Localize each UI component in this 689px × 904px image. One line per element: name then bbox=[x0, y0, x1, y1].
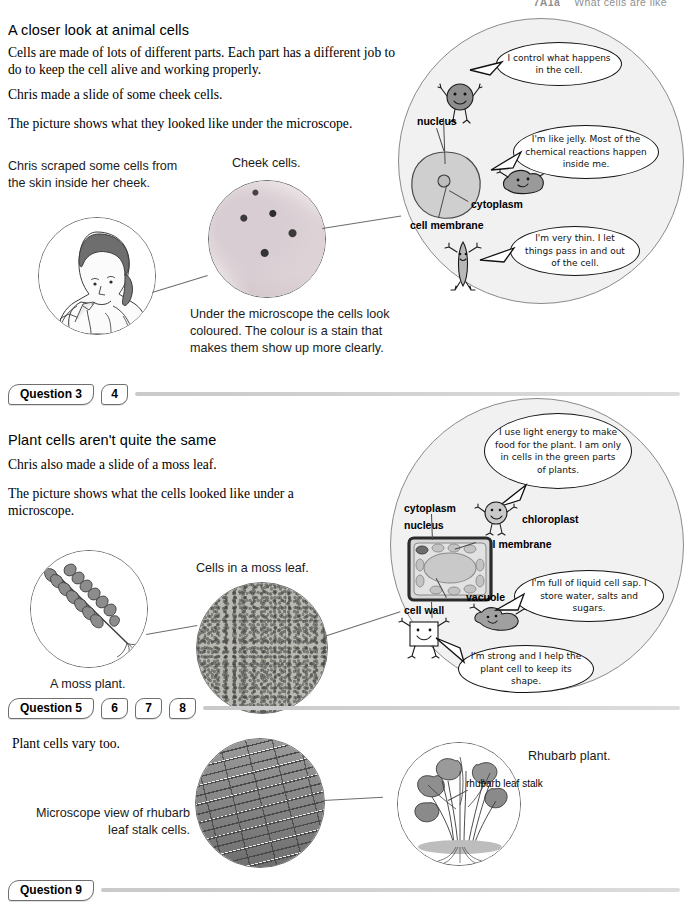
cell-membrane-character-svg bbox=[443, 236, 483, 292]
bubble-vacuole: I'm full of liquid cell sap. I store wat… bbox=[514, 570, 664, 622]
moss-plant-illustration bbox=[30, 550, 148, 668]
bubble-tail-cell-membrane bbox=[478, 244, 516, 268]
question-pill-main[interactable]: Question 9 bbox=[8, 880, 94, 901]
plant-cells-paragraph-1: Chris also made a slide of a moss leaf. bbox=[8, 456, 388, 473]
plant-cells-paragraph-2: The picture shows what the cells looked … bbox=[8, 485, 343, 519]
moss-cells-caption: Cells in a moss leaf. bbox=[196, 560, 309, 577]
label-cell-membrane: cell membrane bbox=[410, 219, 484, 231]
label-rhubarb-leaf-stalk: rhubarb leaf stalk bbox=[466, 778, 543, 790]
rhubarb-plant-illustration bbox=[397, 742, 521, 866]
bubble-tail-nucleus bbox=[468, 56, 504, 80]
question-pill-4[interactable]: 4 bbox=[101, 384, 128, 405]
question-pill-main[interactable]: Question 5 bbox=[8, 698, 94, 719]
question-pill-7[interactable]: 7 bbox=[135, 698, 162, 719]
question-bar-3[interactable]: Question 3 4 bbox=[8, 382, 680, 406]
question-pill-8[interactable]: 8 bbox=[169, 698, 196, 719]
connector-rhubarb-micrograph-to-plant bbox=[323, 797, 383, 801]
rhubarb-intro-text: Plant cells vary too. bbox=[12, 735, 120, 752]
label-rhubarb-leaf-stalk-text: rhubarb leaf stalk bbox=[466, 778, 543, 789]
label-cytoplasm: cytoplasm bbox=[471, 198, 523, 210]
cheek-scrape-caption: Chris scraped some cells from the skin i… bbox=[8, 158, 183, 192]
cell-membrane-character bbox=[443, 236, 483, 296]
question-bar-rule bbox=[135, 392, 680, 396]
label-chloroplast: chloroplast bbox=[522, 513, 579, 525]
question-pill-6[interactable]: 6 bbox=[101, 698, 128, 719]
cheek-cells-caption: Cheek cells. bbox=[232, 155, 301, 172]
label-nucleus-plant: nucleus bbox=[404, 519, 444, 531]
question-bar-9[interactable]: Question 9 bbox=[8, 878, 680, 902]
question-bar-5[interactable]: Question 5 6 7 8 bbox=[8, 696, 680, 720]
animal-cells-paragraph-1: Cells are made of lots of different part… bbox=[8, 44, 400, 78]
bubble-cell-wall: I'm strong and I help the plant cell to … bbox=[458, 645, 594, 693]
bubble-cell-membrane: I'm very thin. I let things pass in and … bbox=[510, 226, 640, 276]
label-nucleus: nucleus bbox=[417, 115, 457, 127]
connector-moss-to-micrograph bbox=[146, 625, 197, 635]
animal-cells-paragraph-3: The picture shows what they looked like … bbox=[8, 115, 418, 132]
page-header: 7A1aWhat cells are like bbox=[534, 0, 668, 8]
bubble-nucleus: I control what happens in the cell. bbox=[496, 42, 622, 86]
page-header-code: 7A1a bbox=[534, 0, 561, 8]
bubble-tail-cytoplasm bbox=[489, 148, 523, 174]
chloroplast-character-svg bbox=[474, 497, 518, 537]
bubble-chloroplast: I use light energy to make food for the … bbox=[484, 413, 632, 489]
animal-cells-paragraph-2: Chris made a slide of some cheek cells. bbox=[8, 86, 400, 103]
page-header-title: What cells are like bbox=[574, 0, 667, 8]
section-heading-animal-cells: A closer look at animal cells bbox=[8, 22, 189, 38]
girl-scraping-cheek-illustration bbox=[38, 217, 156, 335]
stain-caption: Under the microscope the cells look colo… bbox=[190, 306, 395, 357]
question-bar-rule bbox=[203, 706, 680, 710]
cheek-cells-micrograph bbox=[208, 180, 326, 298]
section-heading-plant-cells: Plant cells aren't quite the same bbox=[8, 432, 216, 448]
question-bar-rule bbox=[101, 888, 680, 892]
rhubarb-plant-svg bbox=[398, 743, 520, 865]
connector-micrograph-to-plant-diagram bbox=[324, 611, 400, 637]
moss-cells-texture bbox=[197, 583, 327, 713]
moss-cells-micrograph bbox=[196, 582, 328, 714]
moss-plant-caption: A moss plant. bbox=[50, 676, 126, 693]
moss-plant-svg bbox=[31, 551, 147, 667]
bubble-tail-vacuole bbox=[494, 592, 526, 616]
label-cytoplasm-plant: cytoplasm bbox=[404, 502, 456, 514]
rhubarb-plant-caption: Rhubarb plant. bbox=[528, 748, 611, 765]
bubble-tail-cell-wall bbox=[434, 636, 468, 664]
rhubarb-micrograph bbox=[195, 738, 325, 868]
connector-cheek-to-animal-diagram bbox=[322, 215, 401, 229]
rhubarb-texture bbox=[196, 739, 324, 867]
question-pill-main[interactable]: Question 3 bbox=[8, 384, 94, 405]
cheek-cells-texture bbox=[209, 181, 325, 297]
bubble-cytoplasm: I'm like jelly. Most of the chemical rea… bbox=[513, 125, 659, 179]
connector-girl-to-cheek bbox=[152, 275, 208, 293]
girl-drawing-svg bbox=[39, 218, 155, 334]
rhubarb-microscope-caption: Microscope view of rhubarb leaf stalk ce… bbox=[30, 805, 190, 839]
